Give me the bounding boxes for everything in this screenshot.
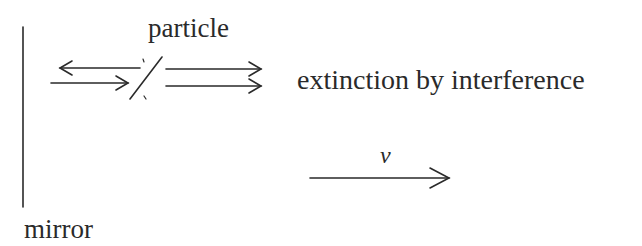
- particle-line: [130, 57, 162, 99]
- particle-tick-top: [143, 59, 144, 62]
- transmitted-arrow-lower: [166, 79, 261, 93]
- reflected-arrow: [60, 61, 140, 75]
- incident-arrow: [51, 76, 128, 90]
- particle-tick-bottom: [144, 96, 146, 99]
- velocity-arrow: [310, 168, 449, 188]
- velocity-label: v: [380, 142, 391, 168]
- transmitted-arrow-upper: [166, 62, 261, 76]
- extinction-label: extinction by interference: [297, 64, 585, 95]
- particle-label: particle: [148, 13, 229, 43]
- mirror-label: mirror: [24, 214, 93, 244]
- diagram-canvas: particle extinction by interference v mi…: [0, 0, 642, 246]
